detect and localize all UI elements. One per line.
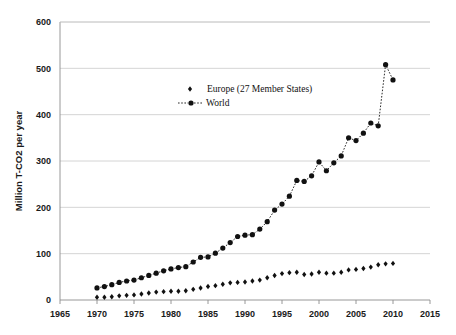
chart-container: 0100200300400500600 19651970197519801985… xyxy=(0,0,456,335)
x-tick-label-2015: 2015 xyxy=(420,309,440,319)
world-data-point-1993 xyxy=(265,219,270,224)
world-data-point-1982 xyxy=(183,264,188,269)
y-tick-label-400: 400 xyxy=(36,110,51,120)
x-tick-label-1975: 1975 xyxy=(124,309,144,319)
world-data-point-1970 xyxy=(94,285,99,290)
world-data-point-1981 xyxy=(176,265,181,270)
x-tick-label-2010: 2010 xyxy=(383,309,403,319)
y-tick-label-500: 500 xyxy=(36,64,51,74)
world-data-point-1987 xyxy=(220,246,225,251)
world-data-point-1974 xyxy=(124,278,129,283)
y-tick-label-600: 600 xyxy=(36,17,51,27)
world-data-point-1975 xyxy=(131,277,136,282)
world-data-point-2009 xyxy=(383,62,388,67)
world-data-point-2005 xyxy=(353,138,358,143)
world-data-point-2000 xyxy=(316,159,321,164)
y-tick-label-300: 300 xyxy=(36,156,51,166)
x-tick-label-1995: 1995 xyxy=(272,309,292,319)
x-tick-label-1970: 1970 xyxy=(87,309,107,319)
world-data-point-1986 xyxy=(213,251,218,256)
legend-label-world: World xyxy=(206,98,230,108)
world-data-point-1973 xyxy=(117,280,122,285)
world-data-point-2008 xyxy=(376,123,381,128)
y-axis-title: Million T-CO2 per year xyxy=(13,111,24,212)
x-tick-label-2005: 2005 xyxy=(346,309,366,319)
world-data-point-1990 xyxy=(242,233,247,238)
x-tick-label-1965: 1965 xyxy=(50,309,70,319)
world-data-point-2003 xyxy=(339,153,344,158)
legend-label-europe: Europe (27 Member States) xyxy=(207,84,312,95)
world-data-point-1995 xyxy=(279,201,284,206)
x-tick-label-2000: 2000 xyxy=(309,309,329,319)
world-data-point-1996 xyxy=(287,194,292,199)
world-data-point-1972 xyxy=(109,282,114,287)
world-data-point-1997 xyxy=(294,178,299,183)
x-tick-label-1985: 1985 xyxy=(198,309,218,319)
world-data-point-2002 xyxy=(331,160,336,165)
world-data-point-1976 xyxy=(139,275,144,280)
x-tick-label-1980: 1980 xyxy=(161,309,181,319)
world-data-point-2010 xyxy=(390,77,395,82)
world-data-point-1971 xyxy=(102,284,107,289)
world-data-point-1994 xyxy=(272,208,277,213)
co2-emissions-line-chart: 0100200300400500600 19651970197519801985… xyxy=(0,0,456,335)
world-data-point-2007 xyxy=(368,120,373,125)
y-tick-label-200: 200 xyxy=(36,203,51,213)
world-data-point-2006 xyxy=(361,131,366,136)
world-data-point-1977 xyxy=(146,273,151,278)
world-data-point-1999 xyxy=(309,173,314,178)
world-data-point-1991 xyxy=(250,232,255,237)
legend-marker-world xyxy=(188,100,193,105)
world-data-point-1978 xyxy=(154,271,159,276)
world-data-point-2001 xyxy=(324,168,329,173)
world-data-point-2004 xyxy=(346,135,351,140)
x-tick-label-1990: 1990 xyxy=(235,309,255,319)
world-data-point-1983 xyxy=(191,259,196,264)
y-tick-label-0: 0 xyxy=(46,295,51,305)
world-data-point-1979 xyxy=(161,268,166,273)
world-data-point-1980 xyxy=(168,266,173,271)
world-data-point-1988 xyxy=(228,240,233,245)
world-data-point-1992 xyxy=(257,227,262,232)
chart-background xyxy=(0,0,456,335)
y-tick-label-100: 100 xyxy=(36,249,51,259)
world-data-point-1985 xyxy=(205,254,210,259)
world-data-point-1998 xyxy=(302,179,307,184)
world-data-point-1984 xyxy=(198,255,203,260)
world-data-point-1989 xyxy=(235,234,240,239)
